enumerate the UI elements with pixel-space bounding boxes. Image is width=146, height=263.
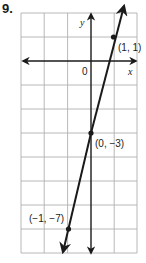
y-axis-label: y	[79, 17, 85, 28]
point-label-0-neg3: (0, −3)	[95, 138, 124, 149]
point-0-neg3	[88, 130, 93, 135]
x-axis-label: x	[127, 66, 133, 77]
coordinate-graph: y x 0 (1, 1) (0, −3) (−1, −7)	[0, 0, 146, 263]
point-1-1	[111, 34, 116, 39]
point-label-neg1-neg7: (−1, −7)	[29, 213, 64, 224]
point-label-1-1: (1, 1)	[118, 42, 141, 53]
graphed-line	[104, 0, 122, 10]
point-neg1-neg7	[66, 226, 71, 231]
origin-label: 0	[82, 66, 88, 77]
line-up	[91, 6, 124, 133]
